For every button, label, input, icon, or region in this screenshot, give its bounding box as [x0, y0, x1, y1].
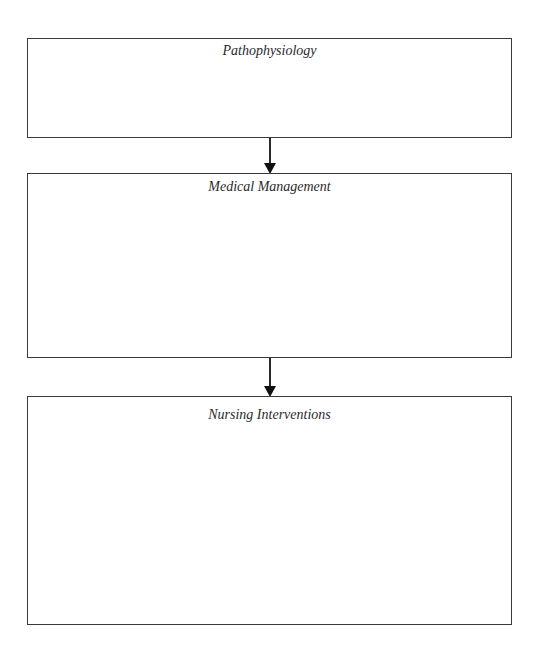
arrow-shaft	[269, 358, 271, 387]
nursing-interventions-content-area[interactable]	[34, 431, 505, 618]
arrow-shaft	[269, 138, 271, 164]
medical-management-box: Medical Management	[27, 173, 512, 358]
medical-management-title: Medical Management	[28, 179, 511, 195]
nursing-interventions-title: Nursing Interventions	[28, 407, 511, 423]
arrow-down-icon	[264, 138, 276, 174]
pathophysiology-box: Pathophysiology	[27, 38, 512, 138]
nursing-interventions-box: Nursing Interventions	[27, 396, 512, 625]
pathophysiology-content-area[interactable]	[34, 65, 505, 131]
pathophysiology-title: Pathophysiology	[28, 43, 511, 59]
medical-management-content-area[interactable]	[34, 202, 505, 351]
arrow-down-icon	[264, 358, 276, 397]
